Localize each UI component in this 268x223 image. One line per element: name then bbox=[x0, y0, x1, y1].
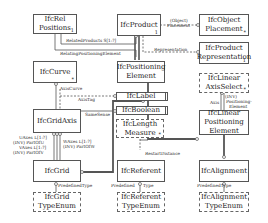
cardinality-marker: 1 bbox=[71, 27, 74, 33]
entity-ifclinear-axis-select[interactable]: IfcLinearAxisSelect * bbox=[199, 73, 249, 93]
entity-label: IfcGrid bbox=[45, 167, 70, 176]
relation-label-axis-curve: AxisCurve bbox=[60, 86, 82, 91]
entity-label: IfcAlignment bbox=[201, 167, 247, 176]
relation-label-referent-type: Type bbox=[143, 183, 154, 188]
entity-ifcgrid-axis[interactable]: IfcGridAxis bbox=[33, 109, 81, 133]
relation-label-related-products: RelatedProducts S[1:?] bbox=[66, 38, 116, 43]
cardinality-marker: * bbox=[159, 131, 162, 137]
relation-label-representation: Representation bbox=[154, 47, 187, 52]
entity-ifcpositioning-element[interactable]: IfcPositioningElement bbox=[117, 61, 165, 83]
entity-label-line3: Element bbox=[204, 127, 243, 136]
entity-label-line1: IfcGrid bbox=[38, 193, 76, 202]
entity-label-line2: Placement bbox=[205, 25, 242, 34]
cardinality-marker: 1 bbox=[155, 29, 158, 35]
entity-ifclength-measure[interactable]: IfcLengthMeasure * bbox=[116, 119, 164, 138]
entity-ifcalignment[interactable]: IfcAlignment bbox=[199, 160, 249, 182]
relation-label-axis: Axis bbox=[210, 100, 219, 105]
entity-label-line2: Positioning bbox=[204, 118, 243, 127]
entity-ifcrel-positions[interactable]: IfcRelPositions 1 bbox=[33, 14, 77, 34]
entity-label-line2: TypeEnum bbox=[201, 202, 247, 211]
relation-label-alignment-predefined-type: PredefinedType bbox=[197, 183, 231, 188]
cardinality-marker: * bbox=[244, 29, 247, 35]
entity-label-line1: IfcReferent bbox=[121, 193, 161, 202]
entity-label-line2: Positions bbox=[39, 24, 71, 33]
relation-label-referent-predefined: Predefined bbox=[111, 183, 135, 188]
entity-label-line1: IfcPositioning bbox=[117, 63, 166, 72]
relation-label-relating-positioning-element: RelatingPositioningElement bbox=[60, 51, 121, 56]
entity-label-line1: IfcLinear bbox=[206, 74, 243, 83]
entity-label: IfcBoolean bbox=[122, 106, 160, 115]
entity-label: IfcReferent bbox=[121, 167, 161, 176]
entity-label-line2: TypeEnum bbox=[38, 202, 76, 211]
entity-ifcreferent[interactable]: IfcReferent bbox=[117, 160, 165, 182]
entity-label: IfcGridAxis bbox=[37, 117, 77, 126]
entity-ifcproduct-representation[interactable]: IfcProductRepresentation 1 bbox=[199, 42, 249, 64]
entity-label-line2: Element bbox=[117, 72, 166, 81]
entity-label-line1: IfcLength bbox=[123, 120, 157, 129]
entity-label-line1: IfcAlignment bbox=[201, 193, 247, 202]
entity-label-line1: IfcRel bbox=[39, 15, 71, 24]
entity-ifcgrid-type-enum[interactable]: IfcGridTypeEnum bbox=[33, 192, 81, 212]
relation-label-grid-predefined-type: PredefinedType bbox=[58, 183, 92, 188]
entity-label: IfcLabel bbox=[127, 92, 156, 101]
cardinality-marker: * bbox=[244, 86, 247, 92]
entity-ifccurve[interactable]: IfcCurve * bbox=[33, 61, 77, 83]
entity-ifcalignment-type-enum[interactable]: IfcAlignmentTypeEnum bbox=[199, 192, 249, 212]
relation-label-restart-distance: RestartDistance bbox=[145, 151, 180, 156]
entity-label: IfcCurve bbox=[40, 68, 71, 77]
cardinality-marker: * bbox=[72, 76, 75, 82]
relation-label-element: Element bbox=[229, 104, 247, 109]
entity-ifclabel[interactable]: IfcLabel bbox=[116, 92, 168, 101]
entity-ifcgrid[interactable]: IfcGrid bbox=[33, 160, 81, 182]
relation-label-placement: Placement bbox=[167, 23, 190, 28]
entity-label-line2: AxisSelect bbox=[206, 83, 243, 92]
entity-ifcproduct[interactable]: IfcProduct 1 bbox=[117, 14, 161, 36]
relation-label-part-of-w: (INV) PartOfW bbox=[63, 144, 95, 149]
relation-label-axis-tag: AxisTag bbox=[78, 97, 95, 102]
entity-label-line2: Measure bbox=[123, 129, 157, 138]
entity-label-line1: IfcProduct bbox=[197, 44, 251, 53]
relation-label-part-of-v: (INV) PartOfV bbox=[13, 150, 44, 155]
entity-label-line1: IfcObject bbox=[205, 16, 242, 25]
entity-ifcreferent-type-enum[interactable]: IfcReferentTypeEnum bbox=[117, 192, 165, 212]
entity-label: IfcProduct bbox=[120, 21, 157, 30]
entity-ifcboolean[interactable]: IfcBoolean bbox=[116, 106, 168, 115]
relation-label-same-sense: SameSense bbox=[85, 112, 110, 117]
cardinality-marker: 1 bbox=[243, 57, 246, 63]
entity-ifcobject-placement[interactable]: IfcObjectPlacement * bbox=[199, 14, 249, 36]
entity-label-line1: IfcLinear bbox=[204, 109, 243, 118]
entity-label-line2: TypeEnum bbox=[121, 202, 161, 211]
entity-ifclinear-positioning-element[interactable]: IfcLinearPositioningElement bbox=[199, 110, 249, 135]
